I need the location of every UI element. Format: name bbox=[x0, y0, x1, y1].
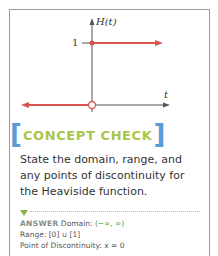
discontinuity-line: Point of Discontinuity: x = 0 bbox=[20, 240, 210, 251]
triangle-down-icon bbox=[20, 210, 28, 216]
domain-label: Domain: bbox=[61, 219, 93, 228]
y-tick-label: 1 bbox=[72, 37, 78, 48]
range-line: Range: [0] ∪ [1] bbox=[20, 229, 210, 240]
close-bracket: ] bbox=[153, 121, 165, 147]
y-axis-label: H(t) bbox=[95, 16, 117, 27]
open-bracket: [ bbox=[10, 121, 22, 147]
dotted-line bbox=[30, 211, 200, 212]
heading-text: CONCEPT CHECK bbox=[23, 128, 153, 143]
question-text: State the domain, range, and any points … bbox=[20, 152, 200, 200]
answer-block: ANSWER Domain: (−∞, ∞) Range: [0] ∪ [1] … bbox=[20, 218, 210, 251]
answer-domain-line: ANSWER Domain: (−∞, ∞) bbox=[20, 218, 210, 229]
answer-label: ANSWER bbox=[20, 219, 58, 228]
answer-divider bbox=[20, 210, 200, 216]
heaviside-graph: H(t) 1 t bbox=[0, 0, 218, 120]
concept-check-heading: [ CONCEPT CHECK ] bbox=[10, 121, 165, 147]
x-axis-label: t bbox=[164, 89, 169, 100]
domain-value: (−∞, ∞) bbox=[95, 219, 124, 228]
